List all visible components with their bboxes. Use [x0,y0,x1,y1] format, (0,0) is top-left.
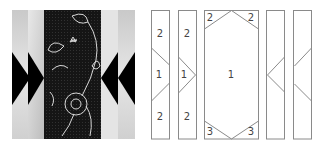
center-label-top-right: 2 [248,12,254,23]
strip-1-label-mid: 1 [156,69,162,80]
strip-4-triangle-seam [268,57,285,92]
strip-1-label-top: 2 [157,28,163,39]
center-label-top-left: 2 [207,12,213,23]
strip-1-label-bottom: 2 [157,111,163,122]
strip-4 [267,11,285,140]
strip-5-seam-top [295,48,312,66]
strip-1-seam-top [152,48,170,65]
strip-2-label-bottom: 2 [184,111,190,122]
strip-2-label-mid: 1 [181,69,187,80]
strip-5-seam-bottom [295,84,312,101]
center-label-bottom-left: 3 [207,126,213,137]
strip-1-seam-bottom [152,83,170,101]
piecing-diagram: 2 1 2 2 1 2 2 2 1 3 3 [0,0,324,146]
strip-5 [294,11,312,140]
center-label-bottom-right: 3 [248,126,254,137]
center-label-main: 1 [228,69,234,80]
strip-2-label-top: 2 [184,28,190,39]
